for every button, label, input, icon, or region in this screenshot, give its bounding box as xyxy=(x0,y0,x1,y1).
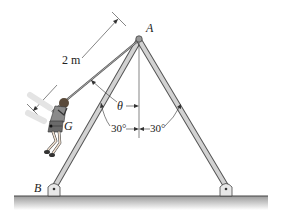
label-theta: θ xyxy=(117,100,123,112)
pin-support-b xyxy=(48,184,60,197)
label-center-of-gravity-g: G xyxy=(64,120,73,132)
swing-set-diagram: A B G 2 m θ 30° 30° xyxy=(0,0,286,213)
label-apex-a: A xyxy=(146,22,153,34)
diagram-canvas xyxy=(0,0,286,213)
ground xyxy=(14,196,268,210)
label-pin-b: B xyxy=(34,182,41,194)
label-rope-length: 2 m xyxy=(62,54,80,66)
apex-pin xyxy=(136,36,142,42)
label-left-30-degrees: 30° xyxy=(111,123,126,134)
label-right-30-degrees: 30° xyxy=(150,123,165,134)
pin-support-right xyxy=(220,184,232,197)
right-leg xyxy=(139,40,226,186)
child-figure xyxy=(28,95,69,157)
